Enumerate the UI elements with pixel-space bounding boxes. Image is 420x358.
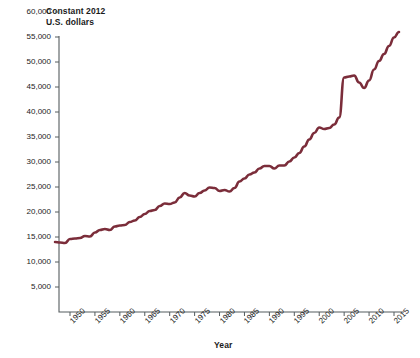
y-tick-label: 50,000: [11, 57, 51, 66]
y-tick-label: 40,000: [11, 107, 51, 116]
axis-lines: [59, 36, 404, 312]
chart-figure: Constant 2012 U.S. dollars 60,00055,0005…: [0, 0, 420, 358]
chart-axes: [55, 12, 404, 316]
y-tick-label: 45,000: [11, 82, 51, 91]
data-series-line: [55, 32, 399, 243]
y-tick-label: 20,000: [11, 207, 51, 216]
y-tick-label: 30,000: [11, 157, 51, 166]
source-footnote: [6, 352, 416, 358]
y-tick-label: 60,000: [11, 7, 51, 16]
y-tick-label: 55,000: [11, 32, 51, 41]
y-tick-label: 15,000: [11, 232, 51, 241]
y-tick-marks: [55, 12, 59, 287]
x-axis-title: Year: [214, 340, 232, 351]
y-tick-label: 5,000: [11, 282, 51, 291]
chart-plot-area: [0, 0, 420, 358]
y-tick-label: 25,000: [11, 182, 51, 191]
y-tick-label: 35,000: [11, 132, 51, 141]
y-tick-label: 10,000: [11, 257, 51, 266]
